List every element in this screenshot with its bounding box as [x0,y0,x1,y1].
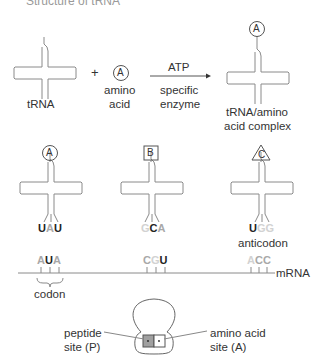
trna-complex-icon [227,42,289,104]
base: G [257,222,266,234]
base: G [266,222,275,234]
anticodon-b: GCA [141,222,165,234]
base: A [46,222,54,234]
trna-label: tRNA [27,97,54,111]
enzyme-label-2: enzyme [160,97,200,111]
amino-acid-label-1: amino [104,83,135,97]
base: A [247,254,255,266]
p-site-label-2: site (P) [64,340,100,354]
trna-icon [14,37,76,99]
base: G [151,254,160,266]
anticodon-label: anticodon [238,236,288,250]
mrna-label: mRNA [276,266,310,280]
base: C [143,254,151,266]
trna-b-icon [121,152,183,214]
base: U [249,222,257,234]
codon-1: AUA [37,254,61,266]
codon-3: ACC [247,254,271,266]
complex-amino-acid-symbol: A [253,22,260,36]
base: C [150,222,158,234]
base: U [45,254,53,266]
p-site-label-1: peptide [64,326,102,340]
codon-label: codon [34,287,65,301]
base: A [158,222,166,234]
base: U [160,254,168,266]
trna-a-icon [20,152,82,214]
codon-brace [37,278,63,287]
base: C [255,254,263,266]
codon-2: CGU [143,254,167,266]
plus-sign: + [91,66,99,80]
arrow-head-icon [206,74,211,79]
complex-label-2: acid complex [224,119,291,133]
anticodon-c: UGG [249,222,274,234]
trna-a-symbol: A [46,146,53,160]
atp-label: ATP [168,60,190,74]
base: A [53,254,61,266]
enzyme-label-1: specific [160,83,198,97]
base: C [263,254,271,266]
base: G [141,222,150,234]
trna-c-symbol: C [258,148,265,162]
base: U [38,222,46,234]
a-site-label-2: site (A) [210,340,246,354]
base: A [37,254,45,266]
amino-acid-label-2: acid [109,97,130,111]
complex-label-1: tRNA/amino [226,105,288,119]
anticodon-a: UAU [38,222,62,234]
diagram-graphics [0,0,323,363]
trna-b-symbol: B [147,146,154,160]
base: U [54,222,62,234]
amino-acid-symbol: A [117,66,124,80]
a-site-label-1: amino acid [210,326,266,340]
